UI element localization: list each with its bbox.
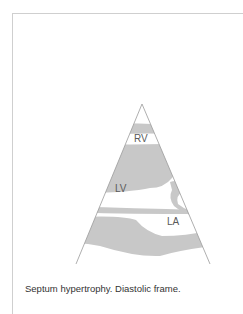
hypertrophic-septum bbox=[60, 142, 200, 194]
la-wall bbox=[60, 216, 220, 256]
la-label: LA bbox=[167, 216, 179, 227]
rv-label: RV bbox=[134, 133, 148, 144]
rv-wall bbox=[60, 123, 200, 137]
figure-caption: Septum hypertrophy. Diastolic frame. bbox=[25, 283, 181, 294]
lv-label: LV bbox=[115, 183, 127, 194]
